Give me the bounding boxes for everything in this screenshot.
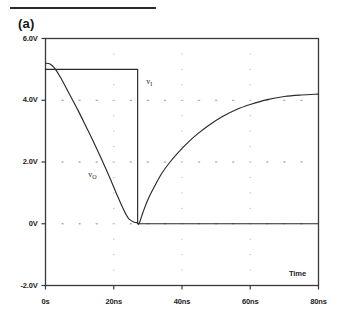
y-tick-label: 4.0V	[4, 95, 38, 104]
annotation-v_I: vI	[146, 77, 152, 86]
y-tick-label: 2.0V	[4, 157, 38, 166]
tick-marks	[42, 39, 319, 290]
y-tick-label: -2.0V	[4, 281, 38, 290]
y-tick-label: 0V	[4, 219, 38, 228]
x-axis-title: Time	[289, 269, 306, 278]
x-tick-label: 40ns	[162, 297, 202, 306]
grid-dots	[61, 38, 302, 286]
curve-v_O	[46, 63, 319, 224]
annotation-subscript: I	[150, 81, 152, 87]
y-tick-label: 6.0V	[4, 34, 38, 43]
annotation-v_O: vO	[88, 170, 96, 179]
x-tick-label: 20ns	[94, 297, 134, 306]
x-tick-label: 80ns	[299, 297, 339, 306]
x-tick-label: 60ns	[230, 297, 270, 306]
series-curves	[46, 63, 319, 224]
annotation-subscript: O	[92, 174, 96, 180]
x-tick-label: 0s	[26, 297, 66, 306]
